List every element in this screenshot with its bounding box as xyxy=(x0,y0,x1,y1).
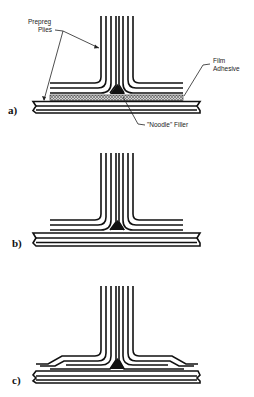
arrowhead xyxy=(94,45,99,49)
prepreg-label-line2: Plies xyxy=(38,26,53,33)
left-web-plies xyxy=(36,286,116,369)
panel-c: c) xyxy=(12,286,200,387)
left-web-plies xyxy=(50,16,116,93)
right-web-plies xyxy=(119,16,183,93)
skin-laminate xyxy=(33,102,200,114)
left-web-plies xyxy=(50,153,116,230)
panel-label-a: a) xyxy=(8,104,18,117)
film-label-line2: Adhesive xyxy=(213,65,240,72)
film-label-line1: Film xyxy=(213,57,225,64)
arrowhead xyxy=(42,96,46,101)
prepreg-leader-web xyxy=(55,30,99,48)
right-web-plies xyxy=(119,286,198,369)
prepreg-label-line1: Prepreg xyxy=(28,18,52,26)
t-joint-diagram: Prepreg Plies Film Adhesive "Noodle" Fil… xyxy=(0,0,254,397)
panel-label-b: b) xyxy=(12,237,22,250)
skin-laminate xyxy=(33,233,200,246)
panel-b: b) xyxy=(12,153,200,250)
right-web-plies xyxy=(119,153,183,230)
panel-label-c: c) xyxy=(12,374,21,387)
noodle-label: "Noodle" Filler xyxy=(147,121,189,128)
prepreg-leader-skin xyxy=(44,31,63,100)
panel-a: Prepreg Plies Film Adhesive "Noodle" Fil… xyxy=(8,16,240,128)
film-leader xyxy=(184,64,210,96)
film-adhesive xyxy=(50,95,183,101)
skin-laminate xyxy=(33,371,200,383)
